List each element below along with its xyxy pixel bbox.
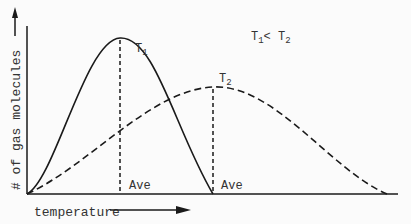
label-t1: T1	[135, 42, 148, 58]
y-axis-arrow-icon	[12, 7, 18, 36]
relation-label: T1< T2	[251, 30, 291, 46]
curve-t2	[27, 87, 387, 194]
y-axis-label: # of gas molecules	[9, 50, 24, 190]
distribution-diagram: # of gas molecules temperature T1 T2 T1<…	[0, 0, 411, 224]
label-t2: T2	[219, 72, 232, 88]
x-axis-label: temperature	[34, 205, 120, 220]
ave-label-t1: Ave	[129, 179, 151, 193]
x-axis-arrow-icon	[110, 206, 191, 214]
ave-label-t2: Ave	[221, 179, 243, 193]
